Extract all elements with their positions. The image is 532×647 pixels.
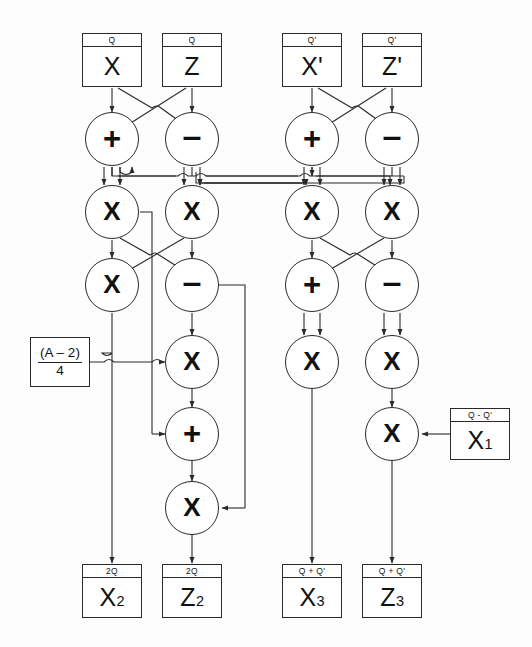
- output-box-x2-value: X2: [83, 578, 141, 617]
- output-box-x2: 2Q X2: [82, 564, 142, 618]
- operator-multiply-left-x2: X: [85, 258, 139, 312]
- output-box-z2-value: Z2: [163, 578, 221, 617]
- diagram-canvas: Q X Q Z Q' X' Q' Z' + – + – X X X X X –: [0, 0, 532, 647]
- output-box-z3-base: Z: [380, 585, 395, 610]
- multiply-icon: X: [183, 348, 200, 374]
- multiply-icon: X: [303, 348, 320, 374]
- operator-square-right-2: X: [365, 335, 419, 389]
- operator-square-left-2: X: [165, 185, 219, 239]
- output-box-x2-header: 2Q: [83, 565, 141, 578]
- input-box-z-prime-header: Q': [363, 34, 421, 47]
- output-box-x2-subscript: 2: [117, 594, 125, 609]
- input-box-x-prime-value: X': [283, 47, 341, 86]
- operator-multiply-left-final: X: [165, 481, 219, 535]
- operator-add-left: +: [85, 112, 139, 166]
- minus-icon: –: [383, 118, 402, 152]
- operator-add-left-final: +: [165, 407, 219, 461]
- minus-icon: –: [183, 118, 202, 152]
- operator-multiply-right-2: X: [365, 185, 419, 239]
- output-box-z2-header: 2Q: [163, 565, 221, 578]
- minus-icon: –: [183, 264, 202, 298]
- operator-square-left-1: X: [85, 185, 139, 239]
- output-box-z3-subscript: 3: [396, 594, 404, 609]
- multiply-icon: X: [303, 198, 320, 224]
- output-box-x3-base: X: [300, 585, 317, 610]
- plus-icon: +: [303, 123, 321, 154]
- input-box-x-header: Q: [83, 34, 141, 47]
- operator-sub-right: –: [365, 112, 419, 166]
- input-box-x-prime-header: Q': [283, 34, 341, 47]
- output-box-z3-value: Z3: [363, 578, 421, 617]
- operator-multiply-x1: X: [365, 407, 419, 461]
- operator-add-right: +: [285, 112, 339, 166]
- fraction: (A – 2) 4: [38, 346, 82, 378]
- multiply-icon: X: [183, 494, 200, 520]
- multiply-icon: X: [383, 348, 400, 374]
- output-box-x3-value: X3: [283, 578, 341, 617]
- output-box-z3-header: Q + Q': [363, 565, 421, 578]
- input-box-x: Q X: [82, 33, 142, 87]
- multiply-icon: X: [383, 420, 400, 446]
- input-box-z-prime-value: Z': [363, 47, 421, 86]
- input-box-z-prime: Q' Z': [362, 33, 422, 87]
- output-box-z2-base: Z: [180, 585, 195, 610]
- input-box-z: Q Z: [162, 33, 222, 87]
- output-box-z2-subscript: 2: [196, 594, 204, 609]
- input-box-x-prime: Q' X': [282, 33, 342, 87]
- output-box-x3-header: Q + Q': [283, 565, 341, 578]
- operator-sub-left-diff: –: [165, 258, 219, 312]
- output-box-x3-subscript: 3: [317, 594, 325, 609]
- output-box-z3: Q + Q' Z3: [362, 564, 422, 618]
- output-box-z2: 2Q Z2: [162, 564, 222, 618]
- input-box-z-value: Z: [163, 47, 221, 86]
- input-box-x1-subscript: 1: [485, 437, 493, 452]
- input-box-x-value: X: [83, 47, 141, 86]
- wire-layer: [0, 0, 532, 647]
- operator-sub-left: –: [165, 112, 219, 166]
- input-box-x1-header: Q - Q': [451, 409, 509, 422]
- fraction-denominator: 4: [38, 363, 82, 379]
- operator-add-right-sum: +: [285, 258, 339, 312]
- plus-icon: +: [103, 123, 121, 154]
- output-box-x2-base: X: [100, 585, 117, 610]
- plus-icon: +: [303, 269, 321, 300]
- minus-icon: –: [383, 264, 402, 298]
- multiply-icon: X: [103, 198, 120, 224]
- multiply-icon: X: [103, 271, 120, 297]
- input-box-x1-value: X1: [451, 422, 509, 459]
- operator-sub-right-diff: –: [365, 258, 419, 312]
- input-box-z-header: Q: [163, 34, 221, 47]
- operator-square-right-1: X: [285, 335, 339, 389]
- fraction-numerator: (A – 2): [38, 346, 82, 363]
- input-box-x1: Q - Q' X1: [450, 408, 510, 460]
- operator-multiply-constant: X: [165, 335, 219, 389]
- operator-multiply-right-1: X: [285, 185, 339, 239]
- multiply-icon: X: [183, 198, 200, 224]
- input-box-x1-base: X: [468, 428, 485, 453]
- plus-icon: +: [183, 418, 201, 449]
- output-box-x3: Q + Q' X3: [282, 564, 342, 618]
- multiply-icon: X: [383, 198, 400, 224]
- constant-box-a-minus-2-over-4: (A – 2) 4: [30, 337, 90, 387]
